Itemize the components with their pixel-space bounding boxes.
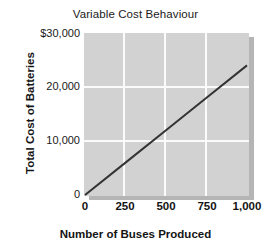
x-tick-label-1000: 1,000 (224, 200, 270, 212)
y-tick-label-30000: $30,000 (2, 27, 80, 39)
x-axis-title: Number of Buses Produced (0, 228, 271, 240)
plot-area (84, 33, 249, 196)
y-tick-label-0: 0 (2, 188, 80, 200)
x-tick-label-250: 250 (102, 200, 148, 212)
x-tick-label-500: 500 (143, 200, 189, 212)
y-tick-label-20000: 20,000 (2, 80, 80, 92)
y-tick-label-10000: 10,000 (2, 134, 80, 146)
chart-figure: Variable Cost Behaviour Total Cost of Ba… (0, 0, 271, 250)
y-axis-ticks: $30,000 20,000 10,000 0 (0, 0, 80, 250)
series-line-total-variable-cost (84, 33, 249, 196)
